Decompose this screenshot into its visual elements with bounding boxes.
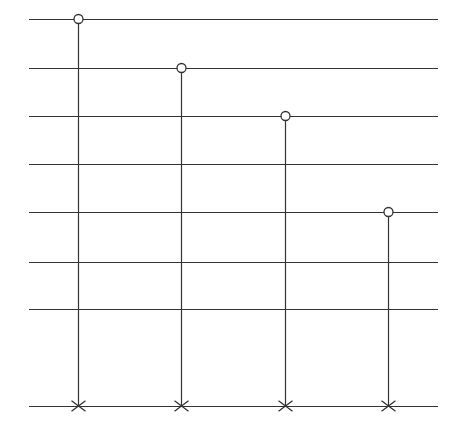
- stem: [175, 64, 189, 412]
- circle-marker-icon: [177, 64, 186, 73]
- stem-diagram: [0, 0, 459, 438]
- horizontal-lines: [29, 20, 438, 407]
- circle-marker-icon: [384, 208, 393, 217]
- stem: [279, 112, 293, 412]
- circle-marker-icon: [74, 15, 83, 24]
- circle-marker-icon: [281, 112, 290, 121]
